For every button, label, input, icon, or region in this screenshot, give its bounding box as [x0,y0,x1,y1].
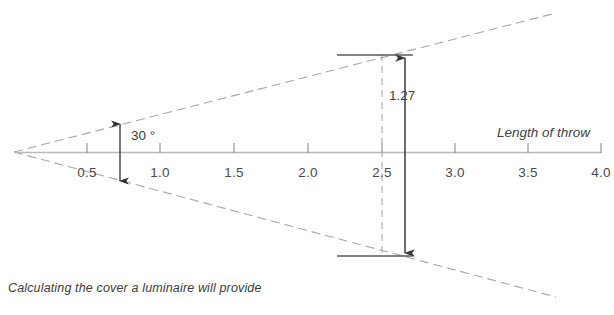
figure-caption: Calculating the cover a luminaire will p… [8,281,262,295]
tick-label-3-5: 3.5 [518,165,537,180]
tick-label-2-5: 2.5 [372,165,391,180]
tick-label-1-5: 1.5 [224,165,243,180]
tick-label-3-0: 3.0 [445,165,464,180]
tick-label-2-0: 2.0 [298,165,317,180]
tick-label-4-0: 4.0 [591,165,610,180]
beam-diagram-canvas [0,0,614,315]
coverage-diameter-label: 1.27 [389,88,415,103]
axis-title-length-of-throw: Length of throw [497,125,590,140]
axis-tick-marks [87,143,601,153]
diagram-figure: 0.5 1.0 1.5 2.0 2.5 3.0 3.5 4.0 30 ° 1.2… [0,0,614,315]
beam-upper-edge-dashed [14,13,556,152]
beam-angle-label: 30 ° [131,128,155,143]
tick-label-0-5: 0.5 [77,165,96,180]
tick-label-1-0: 1.0 [150,165,169,180]
